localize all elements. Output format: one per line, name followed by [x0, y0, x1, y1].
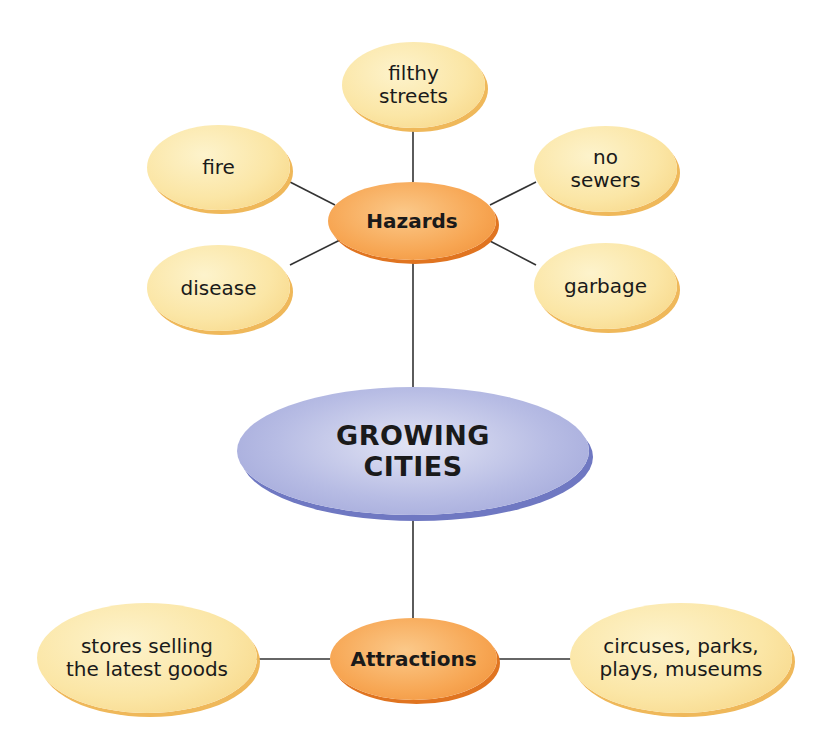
link-hazards-fire	[290, 182, 335, 205]
leaf-label: disease	[181, 277, 257, 300]
leaf-label: circuses, parks, plays, museums	[600, 635, 763, 681]
center-growing-cities: GROWING CITIES	[237, 387, 589, 515]
leaf-stores: stores selling the latest goods	[37, 603, 257, 713]
link-hazards-disease	[290, 240, 340, 265]
leaf-label: no sewers	[570, 146, 640, 192]
hub-label: Hazards	[366, 210, 457, 233]
hub-attractions: Attractions	[330, 618, 497, 700]
leaf-disease: disease	[147, 245, 290, 331]
hub-hazards: Hazards	[328, 182, 496, 260]
hub-label: Attractions	[350, 648, 476, 671]
leaf-label: fire	[202, 156, 235, 179]
leaf-label: stores selling the latest goods	[66, 635, 228, 681]
leaf-filthy-streets: filthy streets	[342, 42, 485, 128]
leaf-garbage: garbage	[534, 243, 677, 329]
center-label: GROWING CITIES	[336, 420, 490, 482]
leaf-label: garbage	[564, 275, 647, 298]
leaf-entertainment: circuses, parks, plays, museums	[570, 603, 792, 713]
concept-web-diagram: filthy streets fire no sewers disease ga…	[0, 0, 823, 743]
leaf-fire: fire	[147, 125, 290, 210]
leaf-no-sewers: no sewers	[534, 126, 677, 212]
link-hazards-no-sewers	[490, 182, 536, 205]
link-hazards-garbage	[488, 240, 536, 265]
leaf-label: filthy streets	[379, 62, 448, 108]
